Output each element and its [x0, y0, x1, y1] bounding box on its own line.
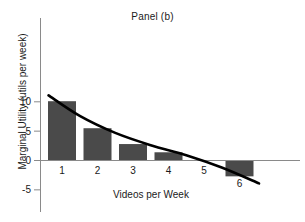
bar	[84, 128, 112, 160]
y-tick-label: 0	[25, 155, 31, 166]
y-tick-label: 10	[20, 96, 32, 107]
x-tick-label: 1	[59, 165, 65, 176]
y-tick-label: 5	[25, 126, 31, 137]
chart-figure: Panel (b) Marginal Utility (utils per we…	[0, 0, 305, 222]
x-ticks-group: 123456	[59, 165, 243, 190]
x-tick-label: 2	[95, 165, 101, 176]
x-tick-label: 4	[166, 165, 172, 176]
x-tick-label: 5	[201, 165, 207, 176]
y-tick-label: -5	[22, 184, 31, 195]
x-tick-label: 6	[237, 178, 243, 189]
plot-area: 1050-5 123456	[0, 0, 305, 222]
bars-group	[48, 101, 254, 176]
x-tick-label: 3	[130, 165, 136, 176]
bar	[119, 144, 147, 160]
y-ticks-group: 1050-5	[20, 96, 41, 195]
marginal-utility-curve	[49, 95, 260, 183]
